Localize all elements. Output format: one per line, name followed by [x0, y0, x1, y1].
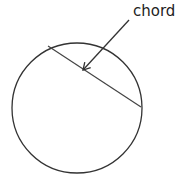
circle: [12, 43, 142, 173]
chord-label: chord: [133, 4, 175, 19]
chord-line: [48, 46, 141, 107]
arrow-icon: [83, 20, 129, 70]
chord-diagram: [0, 0, 183, 182]
